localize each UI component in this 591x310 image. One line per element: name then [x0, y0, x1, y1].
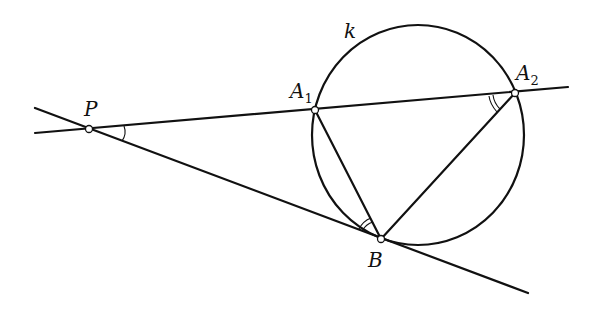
point-a2 [512, 90, 519, 97]
chord-a1-b [315, 110, 381, 239]
label-p: P [83, 97, 98, 121]
angle-mark-a2-inner [493, 95, 500, 109]
label-a1: A1 [288, 79, 313, 106]
circle-k [312, 25, 524, 245]
diagram-canvas: k P A1 A2 B [0, 0, 591, 310]
label-k: k [344, 19, 356, 43]
label-b: B [367, 248, 383, 272]
angle-mark-p [122, 126, 125, 141]
point-p [86, 126, 93, 133]
label-a2: A2 [514, 61, 539, 88]
point-a1 [312, 107, 319, 114]
chord-a2-b [381, 93, 515, 239]
point-b [378, 236, 385, 243]
tangent-line [35, 108, 528, 293]
